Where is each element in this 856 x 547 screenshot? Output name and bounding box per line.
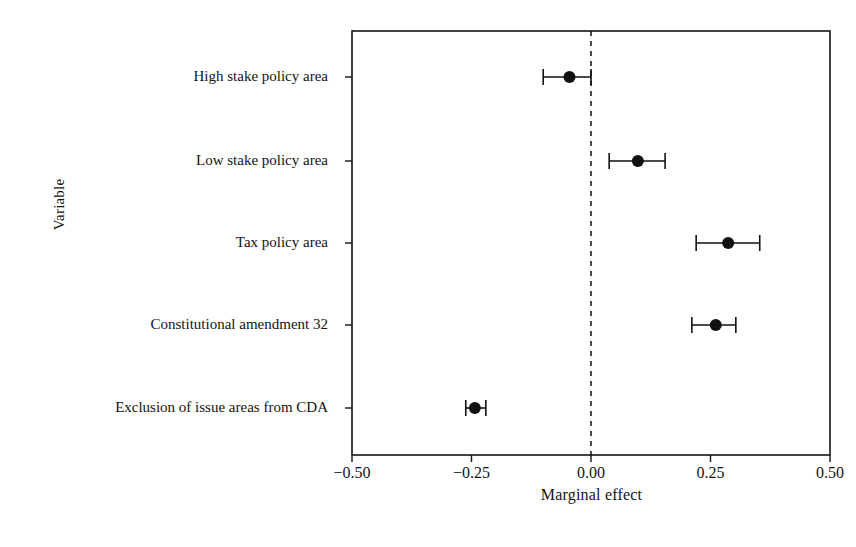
estimate-marker-2 [722,237,734,249]
plot-area [0,0,856,547]
estimate-row-3 [692,317,736,333]
estimate-marker-3 [710,319,722,331]
dot-whisker-chart: Variable High stake policy areaLow stake… [0,0,856,547]
estimate-row-2 [696,235,760,251]
estimate-row-0 [543,69,591,85]
estimate-row-4 [466,400,486,416]
estimate-marker-4 [469,402,481,414]
estimate-marker-0 [563,71,575,83]
estimate-marker-1 [632,155,644,167]
estimate-row-1 [609,153,665,169]
x-axis-title: Marginal effect [352,486,831,504]
